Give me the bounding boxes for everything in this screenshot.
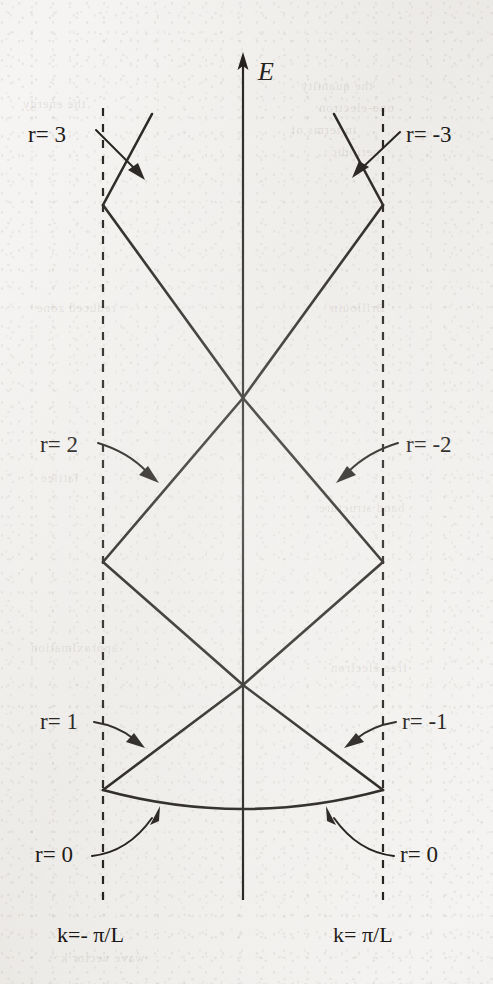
annotation-r0-left: r= 0 [35, 806, 160, 867]
annotation-r2: r= 2 [40, 432, 159, 483]
k-label-left: k=- π/L [57, 922, 124, 947]
band-label-r-2: r= -2 [406, 432, 452, 457]
band-label-r0-right: r= 0 [400, 842, 438, 867]
band-r3-lower [103, 205, 243, 398]
zone-boundary-labels: k=- π/L k= π/L [57, 922, 393, 947]
annotation-r1: r= 1 [40, 709, 145, 748]
band-label-r-1: r= -1 [402, 709, 448, 734]
band-label-r3: r= 3 [28, 122, 66, 147]
band-label-r0-left: r= 0 [35, 842, 73, 867]
leader-arrowhead-r2 [139, 466, 159, 483]
annotation-r3: r= 3 [28, 122, 145, 180]
band-r2-lower [103, 562, 243, 685]
leader-line-r-2 [348, 443, 398, 472]
leader-arrowhead-r0-left [150, 806, 160, 825]
leader-line-r0-left [92, 818, 152, 856]
annotation-r-3: r= -3 [352, 122, 452, 178]
band-r-3-lower [243, 205, 383, 398]
band-label-r1: r= 1 [40, 709, 78, 734]
band-r-1 [243, 685, 383, 790]
band-r-2-upper [243, 398, 383, 562]
leader-line-r-3 [362, 132, 400, 168]
energy-axis: E [238, 52, 275, 900]
leader-line-r-1 [356, 722, 396, 739]
band-label-r-3: r= -3 [406, 122, 452, 147]
band-r-3-upper [334, 114, 383, 205]
band-r2-upper [103, 398, 243, 562]
band-r-2-lower [243, 562, 383, 685]
figure-page: the quantity one-electron in terms of pe… [0, 0, 493, 984]
leader-line-r2 [98, 443, 147, 472]
band-label-r2: r= 2 [40, 432, 78, 457]
energy-axis-label: E [257, 57, 274, 86]
band-diagram-svg: E [0, 0, 493, 984]
leader-arrowhead-r0-right [326, 806, 336, 825]
band-r3-upper [103, 114, 152, 205]
k-label-right: k= π/L [333, 922, 393, 947]
leader-line-r0-right [334, 818, 394, 856]
annotation-r-1: r= -1 [344, 709, 448, 748]
annotation-r-2: r= -2 [336, 432, 452, 483]
band-r1 [103, 685, 243, 790]
leader-line-r1 [94, 722, 134, 739]
